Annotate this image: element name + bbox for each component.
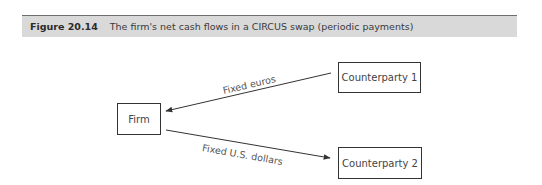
edge-fixed-usd: Fixed U.S. dollars: [166, 130, 330, 167]
edge-label-fixed-euros: Fixed euros: [222, 73, 277, 96]
edges-layer: Fixed euros Fixed U.S. dollars: [0, 0, 542, 185]
node-firm-label: Firm: [128, 114, 149, 125]
node-counterparty-2-label: Counterparty 2: [342, 158, 418, 169]
node-counterparty-1: Counterparty 1: [338, 62, 421, 93]
edge-label-fixed-usd: Fixed U.S. dollars: [202, 142, 284, 167]
node-counterparty-2: Counterparty 2: [338, 147, 422, 179]
edge-fixed-euros: Fixed euros: [166, 73, 331, 111]
node-firm: Firm: [117, 103, 161, 135]
node-counterparty-1-label: Counterparty 1: [342, 72, 418, 83]
